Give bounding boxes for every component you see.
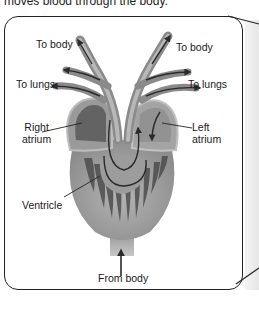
label-left-atrium: Left atrium	[192, 121, 221, 145]
inflow-vessel	[110, 238, 134, 256]
label-to-body-right: To body	[176, 41, 213, 53]
label-ventricle: Ventricle	[22, 199, 62, 211]
label-to-body-left: To body	[36, 38, 73, 50]
label-right-atrium: Right atrium	[22, 121, 51, 145]
label-to-lungs-right: To lungs	[188, 78, 227, 90]
ventricle-shape	[70, 140, 175, 240]
label-to-lungs-left: To lungs	[16, 78, 55, 90]
label-from-body: From body	[98, 272, 148, 284]
